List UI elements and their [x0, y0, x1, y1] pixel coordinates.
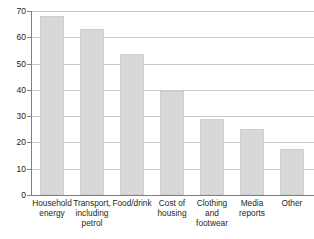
y-axis-label-20: 20: [17, 138, 26, 147]
category-labels: Household energy Transport, including pe…: [31, 198, 314, 239]
y-axis-label-70: 70: [17, 7, 26, 16]
bars-layer: [31, 11, 314, 195]
bar-other: [280, 149, 304, 195]
axis-baseline: [31, 195, 314, 196]
bar-transport-petrol: [80, 29, 104, 195]
bar-media-reports: [240, 129, 264, 195]
bar-clothing-footwear: [200, 119, 224, 195]
bar-chart: 70 60 50 40 30 20 10 0 Household energy …: [0, 0, 314, 239]
y-axis-label-40: 40: [17, 86, 26, 95]
bar-cost-of-housing: [160, 91, 184, 195]
y-tick-0: [27, 195, 31, 196]
y-axis-label-60: 60: [17, 33, 26, 42]
category-label-other: Other: [259, 198, 314, 208]
bar-food-drink: [120, 54, 144, 195]
bar-household-energy: [40, 16, 64, 195]
y-axis-label-10: 10: [17, 165, 26, 174]
y-axis-label-50: 50: [17, 60, 26, 69]
y-axis-label-30: 30: [17, 112, 26, 121]
